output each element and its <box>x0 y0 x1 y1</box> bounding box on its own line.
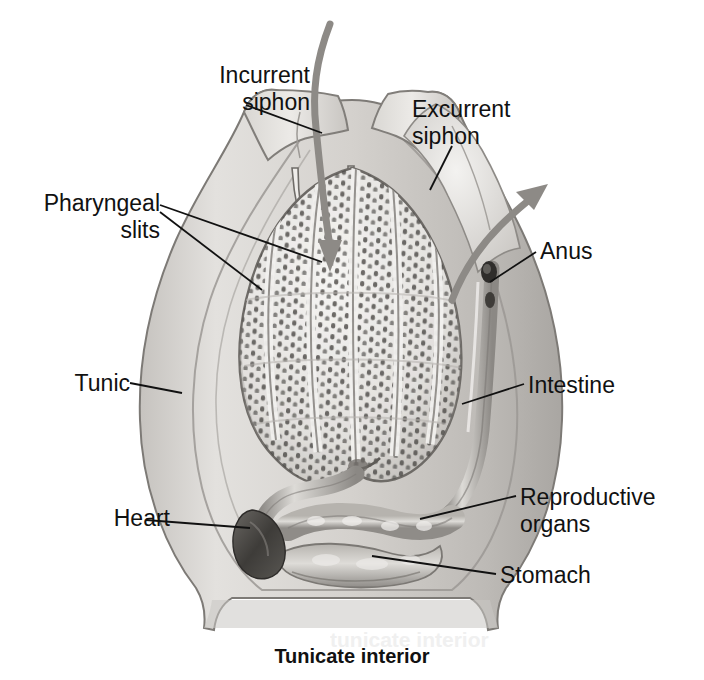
label-heart: Heart <box>60 505 170 532</box>
label-incurrent-siphon: Incurrent siphon <box>120 62 310 116</box>
label-reproductive-organs: Reproductive organs <box>520 484 700 538</box>
label-tunic: Tunic <box>20 370 130 397</box>
label-stomach: Stomach <box>500 562 660 589</box>
label-pharyngeal-slits: Pharyngeal slits <box>8 190 160 244</box>
figure-caption: Tunicate interior <box>0 645 704 668</box>
label-anus: Anus <box>540 238 650 265</box>
reproductive-organs-shape <box>288 516 452 531</box>
label-excurrent-siphon: Excurrent siphon <box>412 96 592 150</box>
label-intestine: Intestine <box>528 372 678 399</box>
tunicate-diagram: Incurrent siphon Pharyngeal slits Tunic … <box>0 0 704 680</box>
